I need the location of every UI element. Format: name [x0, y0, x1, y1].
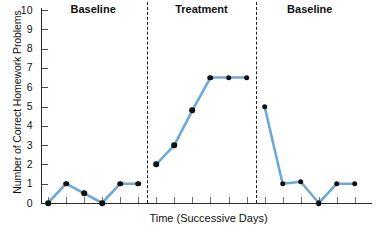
data-point [172, 142, 178, 148]
data-point [99, 200, 105, 206]
data-point [262, 104, 268, 110]
data-point [190, 108, 196, 114]
data-point [316, 200, 322, 206]
data-point [280, 181, 286, 187]
data-point [226, 75, 232, 81]
data-point [208, 75, 214, 81]
data-point [81, 191, 87, 197]
phase-line-2 [265, 107, 355, 204]
data-point [334, 181, 340, 187]
data-point [45, 200, 51, 206]
phase-line-0 [48, 184, 138, 203]
data-point [352, 181, 358, 187]
data-point [244, 75, 250, 81]
data-point [117, 181, 123, 187]
phase-line-1 [156, 78, 246, 165]
data-point [298, 179, 304, 185]
single-subject-abab-chart: Number of Correct Homework Problems Time… [0, 0, 377, 235]
cut-off-caption [2, 226, 232, 234]
data-point [135, 181, 141, 187]
data-point [63, 181, 69, 187]
data-point [153, 162, 159, 168]
